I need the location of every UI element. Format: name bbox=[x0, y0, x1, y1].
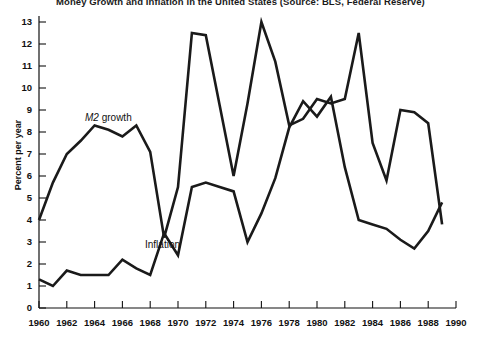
y-tick-label: 9 bbox=[12, 104, 32, 115]
chart-figure: Money Growth and Inflation in the United… bbox=[0, 0, 478, 342]
series-line-m2-growth bbox=[39, 22, 442, 238]
series-label-m2-prefix: M2 bbox=[85, 112, 99, 123]
y-tick-label: 2 bbox=[12, 258, 32, 269]
y-tick-label: 4 bbox=[12, 214, 32, 225]
series-line-inflation bbox=[39, 97, 442, 286]
y-tick-label: 12 bbox=[12, 38, 32, 49]
y-tick-label: 7 bbox=[12, 148, 32, 159]
y-tick-label: 13 bbox=[12, 16, 32, 27]
y-tick-label: 6 bbox=[12, 170, 32, 181]
y-tick-label: 1 bbox=[12, 280, 32, 291]
series-label-m2-growth: M2 growth bbox=[85, 112, 132, 123]
series-label-inflation: Inflation bbox=[145, 239, 180, 250]
y-tick-label: 0 bbox=[12, 302, 32, 313]
y-tick-label: 8 bbox=[12, 126, 32, 137]
chart-plot-area bbox=[0, 0, 478, 342]
y-tick-label: 10 bbox=[12, 82, 32, 93]
y-tick-label: 11 bbox=[12, 60, 32, 71]
y-tick-label: 5 bbox=[12, 192, 32, 203]
x-tick-label: 1990 bbox=[440, 317, 472, 328]
y-tick-label: 3 bbox=[12, 236, 32, 247]
series-label-m2-suffix: growth bbox=[99, 112, 132, 123]
